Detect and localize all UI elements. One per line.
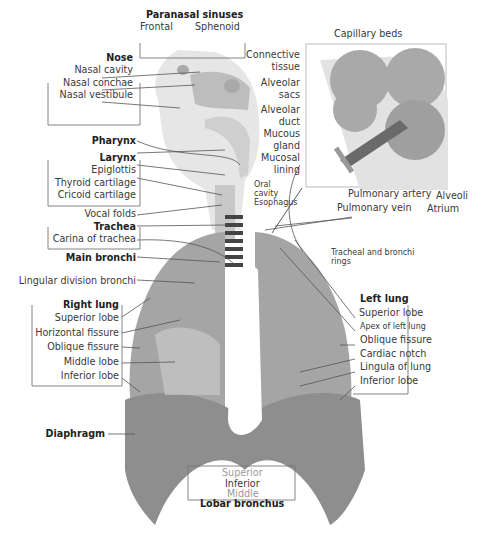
thyroid-cartilage-label: Thyroid cartilage <box>55 177 136 189</box>
main-bronchi-label: Main bronchi <box>66 252 136 264</box>
lingula-label: Lingula of lung <box>360 361 431 373</box>
alveolar-duct-label: Alveolarduct <box>261 104 300 128</box>
mucosal-line2: lining <box>274 164 300 175</box>
apex-left-lung-label: Apex of left lung <box>360 322 426 331</box>
larynx-title: Larynx <box>99 152 136 164</box>
rings-line1: Tracheal and bronchi <box>331 248 414 257</box>
mucous-line2: gland <box>273 140 300 151</box>
capillary-beds-label: Capillary beds <box>334 28 402 40</box>
connective-line1: Connective <box>246 49 300 60</box>
ll-inferior-lobe-label: Inferior lobe <box>360 375 418 387</box>
oral-line2: cavity <box>254 189 278 198</box>
nasal-vestibule-label: Nasal vestibule <box>60 89 133 101</box>
mucous-gland-label: Mucousgland <box>263 128 300 152</box>
cardiac-notch-label: Cardiac notch <box>360 348 426 360</box>
sacs-line1: Alveolar <box>261 77 300 88</box>
mucosal-lining-label: Mucosallining <box>261 152 300 176</box>
atrium-label: Atrium <box>427 203 459 215</box>
tracheal-rings-label: Tracheal and bronchirings <box>331 248 414 266</box>
rl-inferior-lobe-label: Inferior lobe <box>61 370 119 382</box>
pulmonary-artery-label: Pulmonary artery <box>348 188 431 200</box>
rings-line2: rings <box>331 257 351 266</box>
alveolar-sacs-label: Alveolarsacs <box>261 77 300 101</box>
nasal-conchae-label: Nasal conchae <box>63 77 133 89</box>
carina-label: Carina of trachea <box>53 233 136 245</box>
rl-horizontal-fissure-label: Horizontal fissure <box>35 327 119 339</box>
rl-superior-lobe-label: Superior lobe <box>55 312 119 324</box>
connective-tissue-label: Connectivetissue <box>246 49 300 73</box>
lobar-bronchus-title: Lobar bronchus <box>200 498 284 510</box>
sphenoid-sinus-label: Sphenoid <box>195 21 240 33</box>
trachea-title: Trachea <box>94 221 136 233</box>
oral-cavity-label: Oralcavity <box>254 180 278 198</box>
mucosal-line1: Mucosal <box>261 152 300 163</box>
oral-line1: Oral <box>254 180 271 189</box>
frontal-sinus-label: Frontal <box>140 21 173 33</box>
diaphragm-label: Diaphragm <box>46 428 106 440</box>
alveoli-label: Alveoli <box>436 190 468 202</box>
pharynx-label: Pharynx <box>92 135 136 147</box>
lingular-division-label: Lingular division bronchi <box>19 275 136 287</box>
paranasal-sinuses-title: Paranasal sinuses <box>146 9 243 21</box>
vocal-folds-label: Vocal folds <box>84 208 136 220</box>
connective-line2: tissue <box>272 61 300 72</box>
duct-line2: duct <box>279 116 300 127</box>
rl-middle-lobe-label: Middle lobe <box>64 356 119 368</box>
mucous-line1: Mucous <box>263 128 300 139</box>
nasal-cavity-label: Nasal cavity <box>74 64 133 76</box>
pulmonary-vein-label: Pulmonary vein <box>337 202 412 214</box>
esophagus-label: Esophagus <box>254 198 297 207</box>
cricoid-cartilage-label: Cricoid cartilage <box>58 189 136 201</box>
nose-title: Nose <box>106 52 133 64</box>
ll-oblique-fissure-label: Oblique fissure <box>360 334 432 346</box>
respiratory-diagram: Paranasal sinuses Frontal Sphenoid Nose … <box>0 0 489 536</box>
rl-oblique-fissure-label: Oblique fissure <box>47 341 119 353</box>
sacs-line2: sacs <box>279 89 300 100</box>
duct-line1: Alveolar <box>261 104 300 115</box>
right-lung-title: Right lung <box>63 299 119 311</box>
left-lung-title: Left lung <box>360 293 409 305</box>
ll-superior-lobe-label: Superior lobe <box>359 307 423 319</box>
epiglottis-label: Epiglottis <box>91 164 136 176</box>
